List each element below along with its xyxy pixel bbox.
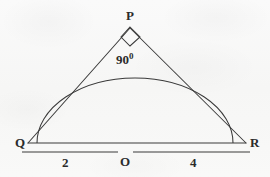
center-label-o: O <box>120 155 130 168</box>
geometry-figure <box>0 0 270 177</box>
degree-symbol: 0 <box>129 51 134 61</box>
vertex-label-r: R <box>250 136 259 149</box>
angle-value: 90 <box>116 52 129 67</box>
vertex-label-p: P <box>126 9 134 22</box>
inscribed-semicircle <box>37 78 233 143</box>
measure-label-left: 2 <box>62 156 69 169</box>
diagram-canvas: P 900 Q R O 2 4 <box>0 0 270 177</box>
triangle-side-pr <box>130 28 246 143</box>
angle-label-90: 900 <box>116 52 134 66</box>
vertex-label-q: Q <box>15 136 25 149</box>
triangle-side-qp <box>28 28 130 143</box>
measure-label-right: 4 <box>190 156 197 169</box>
right-angle-marker <box>121 27 140 46</box>
